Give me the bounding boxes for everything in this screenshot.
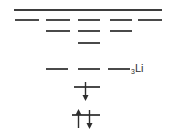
energy-level-diagram: 3Li: [0, 0, 171, 135]
electron-arrow-up: [74, 109, 83, 129]
energy-level-line: [46, 19, 70, 21]
element-symbol: Li: [135, 62, 144, 74]
energy-level-line: [108, 68, 130, 70]
energy-level-line: [110, 19, 132, 21]
energy-level-line: [78, 42, 100, 44]
energy-level-line: [15, 19, 39, 21]
electron-arrow-down: [81, 81, 90, 101]
atomic-number: 3: [131, 68, 135, 75]
energy-level-line: [78, 68, 100, 70]
energy-level-line: [46, 30, 70, 32]
energy-level-line: [78, 30, 100, 32]
energy-level-line: [46, 68, 68, 70]
element-label: 3Li: [131, 59, 143, 75]
electron-arrow-down: [85, 109, 94, 129]
energy-level-line: [78, 19, 100, 21]
energy-level-line: [110, 30, 132, 32]
ionization-continuum-line: [14, 9, 162, 11]
energy-level-line: [138, 19, 162, 21]
